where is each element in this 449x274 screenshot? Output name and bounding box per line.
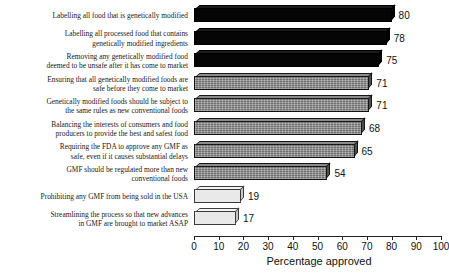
bar-category-label-line: producers to provide the best and safest… — [0, 129, 188, 138]
bar-category-label-line: Removing any genetically modified food — [0, 52, 188, 61]
bar-category-label-line: Genetically modified foods should be sub… — [0, 97, 188, 106]
bar-category-label-line: Prohibiting any GMF from being sold in t… — [0, 192, 188, 201]
bar-side-face — [368, 72, 372, 89]
bar-side-face — [391, 4, 395, 21]
x-axis-tick — [243, 236, 244, 240]
x-axis-tick — [293, 236, 294, 240]
x-axis-tick — [268, 236, 269, 240]
bar-category-label-line: Streamlining the process so that new adv… — [0, 210, 188, 219]
bar-value-label: 65 — [362, 146, 373, 157]
bar — [194, 53, 379, 67]
bar-category-label-line: conventional foods — [0, 174, 188, 183]
bar-side-face — [235, 208, 239, 225]
bar-category-label: GMF should be regulated more than newcon… — [0, 165, 188, 183]
bar-category-label: Streamlining the process so that new adv… — [0, 210, 188, 228]
bar-body — [194, 166, 327, 180]
bar-category-label: Prohibiting any GMF from being sold in t… — [0, 192, 188, 201]
bar-value-label: 78 — [394, 33, 405, 44]
bar-value-label: 71 — [376, 78, 387, 89]
bar-top-face — [195, 73, 373, 77]
bar-value-label: 19 — [248, 191, 259, 202]
bar-side-face — [378, 49, 382, 66]
x-axis-tick — [219, 236, 220, 240]
bar-category-label-line: genetically modified ingredients — [0, 39, 188, 48]
bar — [194, 144, 355, 158]
bar-side-face — [326, 162, 330, 179]
x-axis-tick-label: 0 — [191, 241, 197, 252]
bar-category-label-line: deemed to be unsafe after it has come to… — [0, 61, 188, 70]
bar-body — [194, 144, 355, 158]
x-axis-tick — [318, 236, 319, 240]
bar-body — [194, 121, 362, 135]
bar-category-label: Labelling all processed food that contai… — [0, 29, 188, 47]
x-axis-tick-label: 90 — [411, 241, 422, 252]
bar — [194, 166, 327, 180]
x-axis-tick-label: 100 — [433, 241, 449, 252]
bar-category-label-line: safe before they come to market — [0, 84, 188, 93]
bar-top-face — [195, 50, 383, 54]
bar-category-label-line: Requiring the FDA to approve any GMF as — [0, 142, 188, 151]
bar-category-label-line: Labelling all processed food that contai… — [0, 29, 188, 38]
bar — [194, 31, 387, 45]
bar-category-label: Labelling all food that is genetically m… — [0, 11, 188, 20]
x-axis-tick-label: 50 — [312, 241, 323, 252]
bar-category-label: Requiring the FDA to approve any GMF ass… — [0, 142, 188, 160]
x-axis-tick — [367, 236, 368, 240]
bar-top-face — [195, 118, 366, 122]
x-axis-tick-label: 40 — [287, 241, 298, 252]
bar-value-label: 71 — [376, 100, 387, 111]
x-axis-tick — [416, 236, 417, 240]
bar-body — [194, 189, 241, 203]
bar-top-face — [195, 95, 373, 99]
bar-top-face — [195, 186, 245, 190]
bar-body — [194, 211, 236, 225]
bar — [194, 76, 369, 90]
bar-category-label: Balancing the interests of consumers and… — [0, 120, 188, 138]
bar — [194, 189, 241, 203]
x-axis-tick-label: 60 — [337, 241, 348, 252]
x-axis-tick-label: 70 — [361, 241, 372, 252]
bar — [194, 121, 362, 135]
bar-value-label: 68 — [369, 123, 380, 134]
bar-category-label-line: in GMF are brought to market ASAP — [0, 219, 188, 228]
bar-top-face — [195, 5, 395, 9]
bar-category-label-line: safe, even if it causes substantial dela… — [0, 152, 188, 161]
bar-top-face — [195, 208, 240, 212]
bar-body — [194, 76, 369, 90]
x-axis-title: Percentage approved — [194, 255, 444, 267]
bar-top-face — [195, 163, 331, 167]
x-axis-tick-label: 80 — [386, 241, 397, 252]
x-axis-tick-label: 20 — [238, 241, 249, 252]
bar — [194, 8, 392, 22]
bar — [194, 98, 369, 112]
bar-body — [194, 53, 379, 67]
x-axis-tick — [441, 236, 442, 240]
bar-category-label-line: the same rules as new conventional foods — [0, 106, 188, 115]
bar-side-face — [240, 185, 244, 202]
bar-category-label: Ensuring that all genetically modified f… — [0, 75, 188, 93]
bar-category-label-line: Balancing the interests of consumers and… — [0, 120, 188, 129]
x-axis-tick — [392, 236, 393, 240]
bar-category-label: Genetically modified foods should be sub… — [0, 97, 188, 115]
bar-category-label-line: Ensuring that all genetically modified f… — [0, 75, 188, 84]
bar-value-label: 75 — [386, 55, 397, 66]
bar — [194, 211, 236, 225]
x-axis-tick — [194, 236, 195, 240]
bar-category-label: Removing any genetically modified foodde… — [0, 52, 188, 70]
bar-side-face — [361, 117, 365, 134]
x-axis-tick — [342, 236, 343, 240]
bar-body — [194, 8, 392, 22]
x-axis-tick-label: 10 — [213, 241, 224, 252]
bar-body — [194, 98, 369, 112]
bar-body — [194, 31, 387, 45]
bar-value-label: 80 — [399, 10, 410, 21]
bar-value-label: 17 — [243, 213, 254, 224]
bar-top-face — [195, 141, 358, 145]
bar-value-label: 54 — [334, 168, 345, 179]
x-axis-tick-label: 30 — [263, 241, 274, 252]
bar-side-face — [368, 95, 372, 112]
bar-category-label-line: Labelling all food that is genetically m… — [0, 11, 188, 20]
bar-category-label-line: GMF should be regulated more than new — [0, 165, 188, 174]
bar-top-face — [195, 28, 390, 32]
bar-chart: Labelling all food that is genetically m… — [0, 0, 449, 274]
